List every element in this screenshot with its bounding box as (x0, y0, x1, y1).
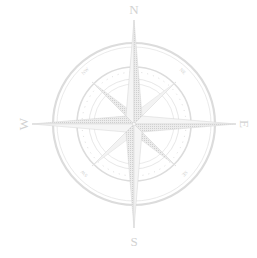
label-northwest: NW (81, 66, 91, 76)
compass-rose: N S E W NE SE SW NW (0, 0, 257, 258)
point-east-light (134, 116, 236, 124)
point-north-dark (134, 20, 142, 124)
center-dot (133, 123, 136, 126)
label-southeast: SE (181, 170, 189, 178)
point-east-dark (134, 124, 236, 132)
point-west-dark (32, 116, 134, 124)
label-southwest: SW (80, 169, 89, 178)
label-south: S (130, 234, 137, 249)
point-south-dark (126, 124, 134, 228)
point-north-light (126, 20, 134, 124)
label-north: N (129, 2, 139, 17)
label-east: E (237, 120, 252, 128)
label-west: W (16, 117, 31, 130)
point-south-light (134, 124, 142, 228)
label-northeast: NE (179, 67, 187, 75)
point-west-light (32, 124, 134, 132)
